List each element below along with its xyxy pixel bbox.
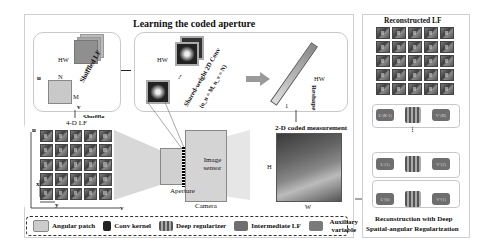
aperture-label: Aperture <box>170 187 195 195</box>
sub-aperture-image <box>440 55 454 67</box>
w-label: W <box>305 203 311 210</box>
legend-item: Conv kernel <box>103 221 151 231</box>
reconstruction-footer-2: Spatial-angular Regularization <box>366 225 459 233</box>
sub-aperture-image <box>408 83 422 95</box>
legend: Angular patch Conv kernel Deep regulariz… <box>26 216 348 236</box>
sub-aperture-image <box>440 69 454 81</box>
auxiliary-variable-icon <box>309 221 323 231</box>
sub-aperture-image <box>408 27 422 39</box>
coded-measurement-image <box>276 133 342 202</box>
legend-item: Auxiliary variable <box>309 218 362 234</box>
h-label: H <box>267 163 272 170</box>
sub-aperture-image <box>424 83 438 95</box>
intermediate-lf-node: L^(1) <box>376 158 394 170</box>
auxiliary-variable-node: V^(K) <box>432 109 450 121</box>
conv-kernel-icon <box>103 221 111 231</box>
reconstruction-footer-1: Reconstruction with Deep <box>375 215 452 223</box>
auxiliary-variable-node: V^(2) <box>432 158 450 170</box>
legend-item: Angular patch <box>33 220 95 232</box>
auxiliary-variable-node: V^(1) <box>432 193 450 205</box>
reconstructed-lf-title: Reconstructed LF <box>384 16 442 25</box>
deep-regularizer-block <box>405 156 421 172</box>
sub-aperture-image <box>392 27 406 39</box>
sub-aperture-image <box>440 41 454 53</box>
sub-aperture-image <box>424 69 438 81</box>
sensor-label: Image sensor <box>200 156 225 172</box>
sub-aperture-image <box>440 83 454 95</box>
sub-aperture-image <box>376 41 390 53</box>
sub-aperture-image <box>376 69 390 81</box>
intermediate-lf-node: L^(K-1) <box>376 109 394 121</box>
sub-aperture-image <box>376 27 390 39</box>
stage-dots: ... <box>410 127 418 132</box>
sub-aperture-image <box>392 69 406 81</box>
sub-aperture-image <box>392 83 406 95</box>
sub-aperture-image <box>424 27 438 39</box>
legend-item: Deep regularizer <box>159 221 226 231</box>
deep-regularizer-icon <box>159 221 173 231</box>
lens-body <box>160 148 184 185</box>
sub-aperture-image <box>392 55 406 67</box>
reconstructed-lf-grid <box>376 27 454 95</box>
measurement-label: 2-D coded measurement <box>275 124 347 132</box>
intermediate-lf-icon <box>234 221 248 231</box>
camera-label: Camera <box>195 202 217 210</box>
sub-aperture-image <box>408 41 422 53</box>
sub-aperture-image <box>408 55 422 67</box>
deep-regularizer-block <box>405 191 421 207</box>
sub-aperture-image <box>392 41 406 53</box>
legend-item: Intermediate LF <box>234 221 301 231</box>
sub-aperture-image <box>376 83 390 95</box>
sub-aperture-image <box>408 69 422 81</box>
sub-aperture-image <box>376 55 390 67</box>
angular-patch-icon <box>33 220 49 232</box>
sub-aperture-image <box>440 27 454 39</box>
deep-regularizer-block <box>405 107 421 123</box>
sub-aperture-image <box>424 55 438 67</box>
sub-aperture-image <box>424 41 438 53</box>
intermediate-lf-node: L^(0) <box>376 193 394 205</box>
